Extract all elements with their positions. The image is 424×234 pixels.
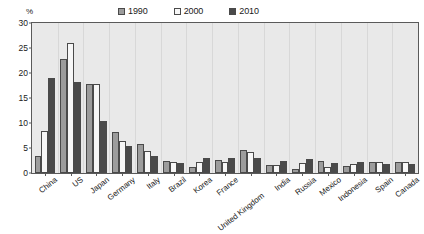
bar-group-mexico — [315, 23, 341, 173]
y-tick-label: 10 — [19, 119, 28, 128]
bar-japan-2000 — [93, 84, 100, 173]
bar-korea-1990 — [189, 167, 196, 174]
bar-russia-1990 — [292, 169, 299, 174]
bar-france-2010 — [228, 158, 235, 173]
x-label-india: India — [273, 176, 291, 193]
y-axis-unit-label: % — [26, 8, 33, 16]
chart-legend: 199020002010 — [118, 4, 348, 18]
legend-item-2010: 2010 — [229, 7, 259, 16]
bar-spain-2000 — [376, 162, 383, 173]
y-tick-label: 25 — [19, 44, 28, 53]
bar-korea-2000 — [196, 162, 203, 173]
bar-group-bars — [32, 23, 58, 173]
bar-us-1990 — [60, 59, 67, 174]
x-label-russia: Russia — [294, 176, 318, 197]
bar-brazil-1990 — [163, 161, 170, 174]
legend-item-2000: 2000 — [174, 7, 204, 16]
bar-spain-1990 — [369, 162, 376, 173]
x-label-france: France — [216, 176, 240, 197]
x-label-united-kingdom: United Kingdom — [217, 192, 266, 233]
bar-group-china — [32, 23, 58, 173]
bar-group-bars — [212, 23, 238, 173]
bar-china-1990 — [35, 156, 42, 174]
bar-canada-2010 — [409, 164, 416, 174]
y-tick-label: 0 — [23, 169, 28, 178]
bar-mexico-2010 — [331, 163, 338, 173]
bar-group-korea — [186, 23, 212, 173]
bar-italy-2000 — [144, 151, 151, 174]
bar-group-bars — [109, 23, 135, 173]
bar-group-united-kingdom — [238, 23, 264, 173]
legend-label-1990: 1990 — [128, 7, 148, 16]
x-label-germany: Germany — [106, 176, 137, 202]
x-label-spain: Spain — [374, 176, 395, 195]
legend-swatch-1990 — [118, 8, 125, 15]
bar-group-bars — [83, 23, 109, 173]
x-label-korea: Korea — [192, 176, 214, 195]
bar-group-canada — [392, 23, 418, 173]
bar-group-bars — [367, 23, 393, 173]
bar-germany-1990 — [112, 132, 119, 174]
bar-germany-2000 — [119, 141, 126, 174]
bar-group-france — [212, 23, 238, 173]
bar-group-brazil — [161, 23, 187, 173]
bar-canada-1990 — [395, 162, 402, 174]
plot-area: 051015202530 — [31, 22, 419, 174]
bar-canada-2000 — [402, 162, 409, 174]
y-tick-label: 15 — [19, 94, 28, 103]
legend-item-1990: 1990 — [118, 7, 148, 16]
bar-chart: 199020002010 % 051015202530 ChinaUSJapan… — [0, 0, 424, 234]
y-tick-label: 20 — [19, 69, 28, 78]
legend-label-2000: 2000 — [184, 7, 204, 16]
x-label-brazil: Brazil — [168, 176, 188, 194]
x-label-indonesia: Indonesia — [337, 176, 369, 203]
bar-group-bars — [238, 23, 264, 173]
y-tick-label: 5 — [23, 144, 28, 153]
bar-us-2000 — [67, 43, 74, 173]
bar-united-kingdom-1990 — [240, 150, 247, 174]
bar-group-bars — [341, 23, 367, 173]
bar-brazil-2010 — [177, 163, 184, 173]
bar-indonesia-1990 — [343, 166, 350, 173]
bar-russia-2000 — [299, 163, 306, 173]
bar-group-russia — [289, 23, 315, 173]
bar-group-bars — [392, 23, 418, 173]
x-label-italy: Italy — [146, 176, 162, 191]
bar-group-bars — [289, 23, 315, 173]
bar-india-2000 — [273, 165, 280, 173]
bar-group-germany — [109, 23, 135, 173]
y-tick-label: 30 — [19, 19, 28, 28]
x-axis-labels: ChinaUSJapanGermanyItalyBrazilKoreaFranc… — [31, 176, 419, 234]
bar-france-2000 — [222, 162, 229, 173]
x-label-canada: Canada — [394, 176, 421, 199]
bar-mexico-1990 — [318, 161, 325, 173]
bar-russia-2010 — [306, 159, 313, 173]
x-label-us: US — [71, 176, 85, 189]
bar-india-2010 — [280, 161, 287, 174]
bar-group-india — [264, 23, 290, 173]
bar-france-1990 — [215, 160, 222, 173]
legend-label-2010: 2010 — [239, 7, 259, 16]
bar-group-bars — [161, 23, 187, 173]
bar-japan-1990 — [86, 84, 93, 173]
bar-china-2010 — [48, 78, 55, 173]
bar-japan-2010 — [100, 121, 107, 174]
bar-group-indonesia — [341, 23, 367, 173]
bar-group-us — [58, 23, 84, 173]
x-label-china: China — [38, 176, 59, 195]
bar-group-bars — [264, 23, 290, 173]
bar-group-spain — [367, 23, 393, 173]
bar-group-bars — [315, 23, 341, 173]
bar-brazil-2000 — [170, 162, 177, 173]
bar-united-kingdom-2010 — [254, 158, 261, 173]
plot-inner: 051015202530 — [32, 23, 418, 173]
bar-china-2000 — [41, 131, 48, 174]
bar-group-japan — [83, 23, 109, 173]
bar-us-2010 — [74, 82, 81, 174]
bar-united-kingdom-2000 — [247, 152, 254, 173]
bar-indonesia-2010 — [357, 162, 364, 174]
bar-indonesia-2000 — [350, 164, 357, 174]
legend-swatch-2010 — [229, 8, 236, 15]
bar-germany-2010 — [126, 146, 133, 174]
bar-spain-2010 — [383, 164, 390, 174]
